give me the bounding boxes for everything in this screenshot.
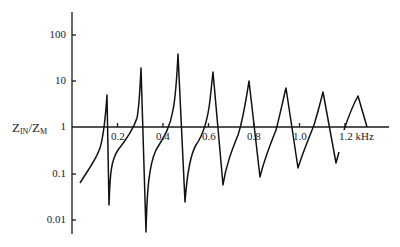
- y-title-z: Z: [12, 120, 20, 135]
- x-label-1-0: 1.0: [293, 130, 307, 142]
- y-label-1: 1: [26, 120, 66, 132]
- y-label-100: 100: [26, 28, 66, 40]
- impedance-curve: [80, 54, 367, 232]
- x-label-0-2: 0.2: [111, 130, 125, 142]
- x-label-1-2-khz: 1.2 kHz: [339, 130, 374, 142]
- x-label-0-4: 0.4: [156, 130, 170, 142]
- y-label-0-01: 0.01: [26, 213, 66, 225]
- x-label-0-8: 0.8: [247, 130, 261, 142]
- x-label-0-6: 0.6: [202, 130, 216, 142]
- y-label-0-1: 0.1: [26, 167, 66, 179]
- y-label-10: 10: [26, 74, 66, 86]
